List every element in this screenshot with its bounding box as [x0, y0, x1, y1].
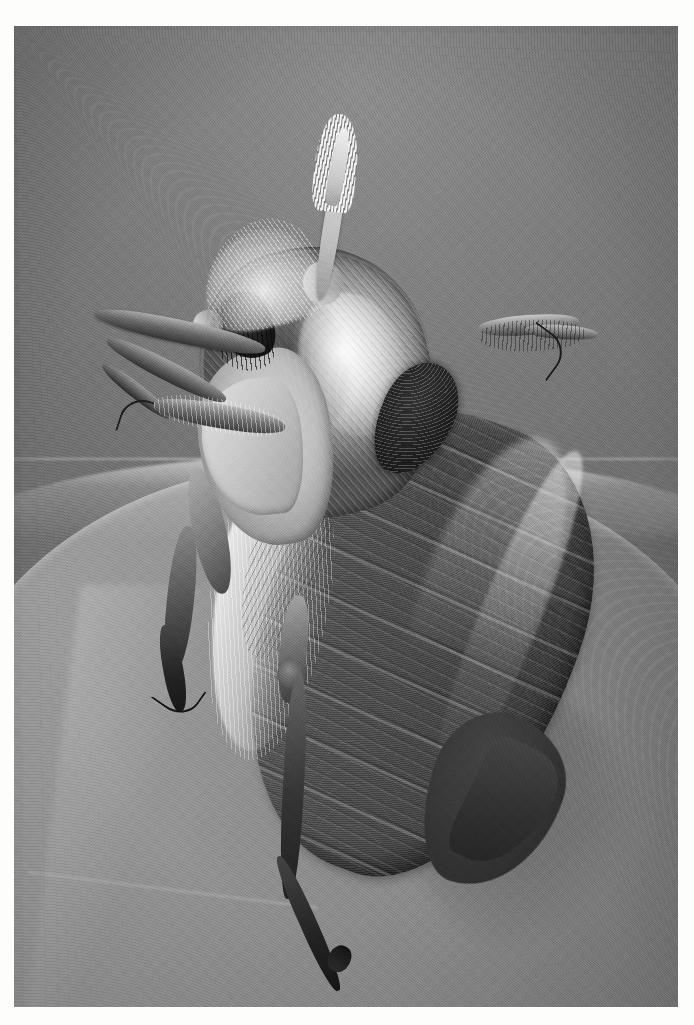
caption [14, 1009, 678, 1023]
page [0, 0, 694, 1025]
photograph [14, 26, 678, 1007]
vignette [14, 26, 678, 1007]
